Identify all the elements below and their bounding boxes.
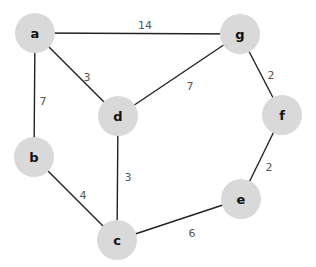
edge-weight-b-c: 4 — [80, 189, 87, 202]
node-label: d — [113, 109, 122, 124]
edge-weight-a-d: 3 — [84, 71, 91, 84]
node-a: a — [15, 13, 55, 53]
edge-weight-g-f: 2 — [268, 69, 275, 82]
node-label: c — [113, 233, 121, 248]
node-label: f — [279, 108, 285, 123]
node-label: a — [31, 26, 40, 41]
node-f: f — [262, 95, 302, 135]
graph-diagram: 1437723426 agdfbec — [0, 0, 316, 267]
nodes-layer: agdfbec — [14, 13, 302, 260]
edge-a-g — [35, 33, 240, 34]
edge-weight-g-d: 7 — [187, 80, 194, 93]
node-c: c — [97, 220, 137, 260]
edge-weight-a-b: 7 — [40, 95, 47, 108]
node-g: g — [220, 14, 260, 54]
node-label: e — [237, 192, 246, 207]
edge-g-d — [118, 34, 240, 116]
node-e: e — [221, 179, 261, 219]
node-d: d — [98, 96, 138, 136]
node-b: b — [14, 137, 54, 177]
node-label: b — [29, 150, 38, 165]
graph-svg: 1437723426 agdfbec — [0, 0, 316, 267]
edge-weight-a-g: 14 — [138, 19, 152, 32]
node-label: g — [235, 27, 244, 42]
edge-weight-f-e: 2 — [266, 161, 273, 174]
edge-weight-d-c: 3 — [125, 171, 132, 184]
edge-weight-c-e: 6 — [189, 227, 196, 240]
